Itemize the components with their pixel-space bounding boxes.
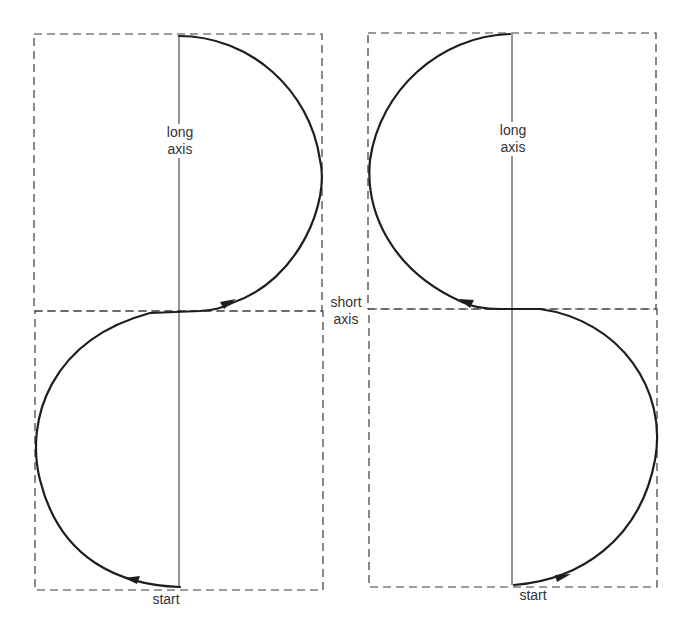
left-upper-dashed-box	[34, 34, 322, 311]
left-long-axis-label: long axis	[163, 124, 197, 158]
left-long-axis-label-line1: long	[164, 124, 196, 141]
left-long-axis-label-line2: axis	[164, 141, 196, 158]
short-axis-label-line2: axis	[327, 311, 365, 328]
right-lower-arrow-icon	[555, 574, 571, 582]
right-long-axis-label: long axis	[496, 122, 530, 156]
left-start-label: start	[145, 591, 187, 608]
right-long-axis-label-line2: axis	[497, 139, 529, 156]
left-start-label-text: start	[146, 591, 186, 608]
right-lower-dashed-box	[369, 309, 657, 587]
right-start-label: start	[512, 587, 554, 604]
right-long-axis-label-line1: long	[497, 122, 529, 139]
right-panel	[368, 33, 657, 587]
short-axis-label: short axis	[326, 294, 366, 328]
left-panel	[34, 34, 323, 590]
right-start-label-text: start	[513, 587, 553, 604]
short-axis-label-line1: short	[327, 294, 365, 311]
